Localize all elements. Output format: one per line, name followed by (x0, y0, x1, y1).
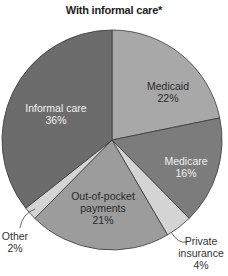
slice-label-private-insurance: Privateinsurance4% (178, 235, 224, 271)
slice-label-other: Other2% (2, 230, 29, 254)
pie-chart: Medicaid22%Medicare16%Privateinsurance4%… (0, 0, 228, 276)
